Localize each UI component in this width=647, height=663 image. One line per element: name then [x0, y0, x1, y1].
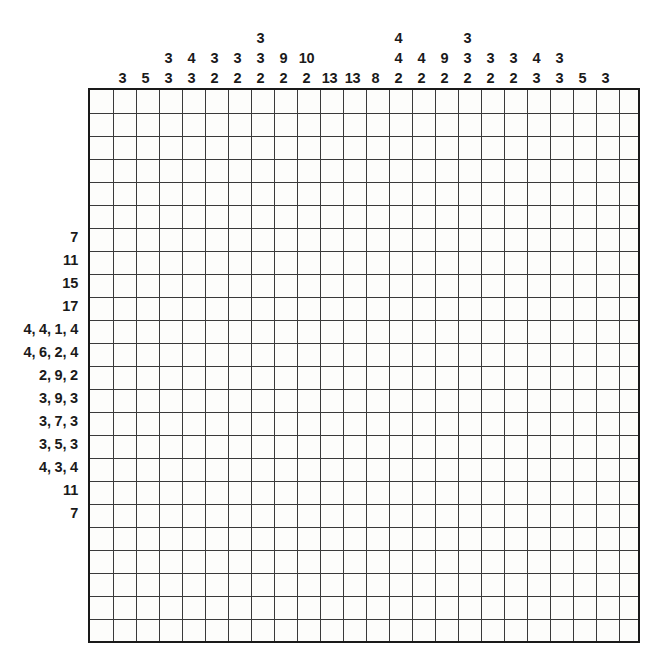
grid-line-horizontal: [90, 550, 638, 551]
column-clue: 33: [548, 14, 571, 88]
column-clue: 332: [249, 14, 272, 88]
row-clue: 7: [70, 502, 78, 525]
grid-line-horizontal: [90, 228, 638, 229]
column-clue: 5: [134, 14, 157, 88]
grid-cells[interactable]: [90, 90, 638, 641]
grid-line-horizontal: [90, 113, 638, 114]
row-clue: 3, 9, 3: [39, 387, 78, 410]
column-clue: [88, 14, 111, 88]
column-clue-number: 3: [487, 48, 495, 68]
grid-line-horizontal: [90, 343, 638, 344]
column-clues: 3533433232332921021313844242923323232433…: [88, 14, 640, 88]
grid-line-horizontal: [90, 182, 638, 183]
nonogram-grid[interactable]: [88, 88, 640, 643]
row-clue: 7: [70, 226, 78, 249]
column-clue: 32: [203, 14, 226, 88]
column-clue: 32: [479, 14, 502, 88]
grid-line-horizontal: [90, 389, 638, 390]
row-clue: 2, 9, 2: [39, 364, 78, 387]
nonogram-puzzle: 3533433232332921021313844242923323232433…: [0, 0, 647, 663]
column-clue-number: 2: [441, 68, 449, 88]
grid-line-horizontal: [90, 159, 638, 160]
column-clue: [617, 14, 640, 88]
column-clue-number: 3: [211, 48, 219, 68]
column-clue-number: 3: [234, 48, 242, 68]
row-clue: 11: [63, 479, 78, 502]
column-clue: 43: [525, 14, 548, 88]
column-clue-number: 3: [556, 48, 564, 68]
grid-line-horizontal: [90, 504, 638, 505]
row-clue: 4, 6, 2, 4: [24, 341, 78, 364]
column-clue-number: 13: [345, 68, 361, 88]
column-clue-number: 2: [234, 68, 242, 88]
column-clue: 332: [456, 14, 479, 88]
grid-line-horizontal: [90, 274, 638, 275]
column-clue-number: 2: [280, 68, 288, 88]
grid-line-horizontal: [90, 136, 638, 137]
grid-line-horizontal: [90, 366, 638, 367]
column-clue-number: 2: [487, 68, 495, 88]
column-clue-number: 8: [372, 68, 380, 88]
column-clue-number: 13: [322, 68, 338, 88]
column-clue-number: 2: [464, 68, 472, 88]
grid-line-horizontal: [90, 297, 638, 298]
column-clue: 13: [318, 14, 341, 88]
column-clue-number: 2: [395, 68, 403, 88]
grid-line-horizontal: [90, 527, 638, 528]
column-clue-number: 4: [395, 48, 403, 68]
row-clue: 17: [62, 295, 78, 318]
column-clue-number: 3: [533, 68, 541, 88]
grid-line-horizontal: [90, 596, 638, 597]
column-clue: 3: [111, 14, 134, 88]
row-clue: 4, 4, 1, 4: [24, 318, 78, 341]
column-clue-number: 3: [464, 48, 472, 68]
column-clue: 3: [594, 14, 617, 88]
column-clue-number: 3: [510, 48, 518, 68]
column-clue: 92: [272, 14, 295, 88]
column-clue: 5: [571, 14, 594, 88]
row-clue: 4, 3, 4: [39, 456, 78, 479]
column-clue: 32: [226, 14, 249, 88]
grid-line-horizontal: [90, 320, 638, 321]
grid-line-horizontal: [90, 435, 638, 436]
column-clue-number: 3: [464, 28, 472, 48]
column-clue-number: 2: [211, 68, 219, 88]
column-clue: 102: [295, 14, 318, 88]
column-clue-number: 3: [119, 68, 127, 88]
column-clue: 33: [157, 14, 180, 88]
column-clue-number: 3: [165, 68, 173, 88]
row-clue: 3, 5, 3: [39, 433, 78, 456]
grid-line-horizontal: [90, 481, 638, 482]
column-clue-number: 5: [579, 68, 587, 88]
column-clue-number: 4: [395, 28, 403, 48]
column-clue-number: 2: [418, 68, 426, 88]
column-clue-number: 4: [188, 48, 196, 68]
grid-line-horizontal: [90, 573, 638, 574]
column-clue: 32: [502, 14, 525, 88]
column-clue-number: 2: [510, 68, 518, 88]
column-clue-number: 4: [418, 48, 426, 68]
column-clue: 92: [433, 14, 456, 88]
grid-line-horizontal: [90, 251, 638, 252]
grid-line-horizontal: [90, 412, 638, 413]
row-clues: 71115174, 4, 1, 44, 6, 2, 42, 9, 23, 9, …: [0, 88, 84, 643]
column-clue-number: 3: [165, 48, 173, 68]
column-clue-number: 3: [257, 48, 265, 68]
column-clue-number: 9: [441, 48, 449, 68]
column-clue-number: 3: [602, 68, 610, 88]
column-clue-number: 4: [533, 48, 541, 68]
column-clue-number: 9: [280, 48, 288, 68]
grid-line-horizontal: [90, 205, 638, 206]
column-clue-number: 3: [556, 68, 564, 88]
column-clue-number: 3: [257, 28, 265, 48]
row-clue: 3, 7, 3: [39, 410, 78, 433]
column-clue: 442: [387, 14, 410, 88]
column-clue: 13: [341, 14, 364, 88]
column-clue-number: 10: [299, 48, 315, 68]
column-clue-number: 3: [188, 68, 196, 88]
column-clue: 42: [410, 14, 433, 88]
column-clue-number: 2: [303, 68, 311, 88]
column-clue: 8: [364, 14, 387, 88]
column-clue-number: 2: [257, 68, 265, 88]
row-clue: 15: [62, 272, 78, 295]
